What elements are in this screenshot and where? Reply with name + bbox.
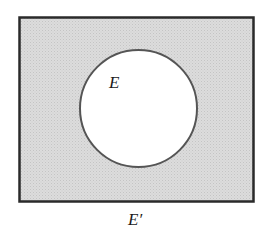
set-e-label: E (108, 73, 120, 92)
set-e-circle (80, 50, 197, 167)
venn-diagram: E E′ (0, 0, 273, 238)
complement-label: E′ (127, 210, 142, 229)
